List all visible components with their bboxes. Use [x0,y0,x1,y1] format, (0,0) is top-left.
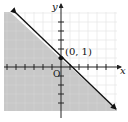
origin-label: O [53,69,60,79]
inequality-graph: (0, 1) x y O [0,0,128,122]
x-axis-label: x [120,65,126,76]
point-marker [59,56,63,60]
y-axis-label: y [51,1,58,12]
point-label: (0, 1) [65,46,92,57]
